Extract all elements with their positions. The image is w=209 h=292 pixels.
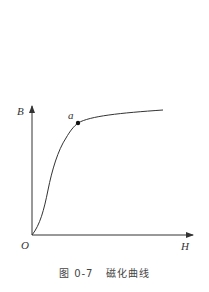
x-axis-label: H — [180, 240, 190, 252]
y-axis-label: B — [17, 105, 24, 117]
bh-curve — [32, 110, 163, 235]
origin-label: O — [21, 239, 29, 251]
point-a-label: a — [68, 109, 74, 121]
caption-text: 磁化曲线 — [106, 268, 150, 279]
point-a-marker — [76, 121, 80, 125]
caption-number: 图 0-7 — [59, 268, 94, 279]
magnetization-curve-chart: a B H O — [0, 0, 209, 292]
figure-caption: 图 0-7 磁化曲线 — [0, 265, 209, 280]
